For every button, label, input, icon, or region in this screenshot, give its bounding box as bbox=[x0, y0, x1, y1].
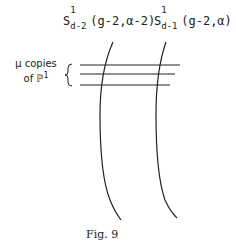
brace-icon bbox=[65, 64, 72, 86]
curve-1 bbox=[100, 42, 121, 220]
curve-2 bbox=[156, 42, 177, 218]
diagram-canvas bbox=[0, 0, 236, 249]
figure-caption: Fig. 9 bbox=[86, 228, 118, 241]
